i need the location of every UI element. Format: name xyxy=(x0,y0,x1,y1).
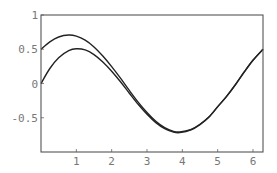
series-curve-2 xyxy=(41,49,263,133)
y-tick-label: 0 xyxy=(31,78,38,91)
y-tick-label: 0.5 xyxy=(18,43,38,56)
x-tick-label: 2 xyxy=(108,155,115,168)
x-tick-label: 5 xyxy=(214,155,221,168)
x-axis-labels: 123456 xyxy=(73,155,256,168)
x-tick-label: 6 xyxy=(250,155,257,168)
x-tick-label: 3 xyxy=(144,155,151,168)
y-tick-label: 1 xyxy=(31,9,38,22)
plot-curves xyxy=(41,35,263,133)
line-chart: 10.50-0.5 123456 xyxy=(0,0,277,173)
y-axis-labels: 10.50-0.5 xyxy=(12,9,39,125)
y-tick-label: -0.5 xyxy=(12,112,39,125)
x-tick-label: 1 xyxy=(73,155,80,168)
x-tick-label: 4 xyxy=(179,155,186,168)
